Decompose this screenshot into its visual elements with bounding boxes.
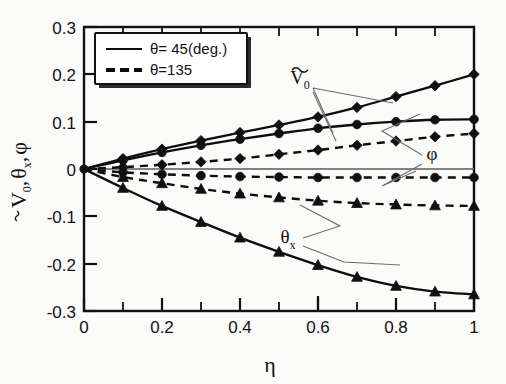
y-title-phi: φ [6,142,31,155]
x-tick-labels: 0 0.2 0.4 0.6 0.8 1 [79,318,478,337]
circle-marker [197,141,206,150]
thetax-annotation-base: θ [280,226,289,247]
y-title-theta: θ [6,168,31,179]
diamond-marker [391,91,401,101]
diamond-marker [235,153,245,163]
circle-marker [275,129,284,138]
circle-marker [470,115,479,124]
diamond-marker [274,120,284,130]
circle-marker [431,173,440,182]
thetax-annotation: θx [280,205,400,265]
y-tick-label: 0 [67,161,76,180]
triangle-marker [469,201,480,211]
diamond-marker [313,145,323,155]
svg-text:V0,θx,φ: V0,θx,φ [6,142,34,208]
diamond-marker [274,149,284,159]
y-tick-label: 0.2 [52,66,76,85]
diamond-marker [313,112,323,122]
svg-text:θx: θx [280,226,295,252]
y-title-tilde-accent [15,211,19,221]
phi-annotation-base: φ [427,143,438,164]
circle-marker [275,173,284,182]
y-title-v0-tilde: V [6,192,31,208]
y-tick-label: 0.1 [52,114,76,133]
x-tick-label: 0 [79,318,88,337]
data-series-layer [80,69,480,299]
y-tick-label: -0.2 [47,256,76,275]
circle-marker [431,115,440,124]
diamond-marker [430,80,440,90]
x-tick-label: 0.2 [150,318,174,337]
circle-marker [197,171,206,180]
circle-marker [236,172,245,181]
y-tick-label: 0.3 [52,19,76,38]
circle-marker [314,173,323,182]
origin-marker [80,165,88,173]
diamond-marker [352,102,362,112]
x-tick-label: 1 [469,318,478,337]
legend-label-0: θ= 45(deg.) [150,40,227,57]
x-tick-label: 0.8 [384,318,408,337]
circle-marker [314,124,323,133]
diamond-marker [352,140,362,150]
circle-marker [158,148,167,157]
x-tick-label: 0.4 [228,318,252,337]
thetax-annotation-sub: x [290,238,296,252]
diamond-marker [469,69,479,79]
diamond-marker [430,132,440,142]
y-tick-label: -0.1 [47,208,76,227]
chart-canvas: 0.3 0.2 0.1 0 -0.1 -0.2 -0.3 0 0.2 0.4 0… [0,0,506,384]
series-line-2 [84,169,474,294]
circle-marker [470,173,479,182]
circle-marker [353,173,362,182]
x-tick-label: 0.6 [306,318,330,337]
circle-marker [353,120,362,129]
v0-annotation-sub: 0 [304,78,310,92]
chart-figure: 0.3 0.2 0.1 0 -0.1 -0.2 -0.3 0 0.2 0.4 0… [0,0,506,384]
legend: θ= 45(deg.) θ=135 [95,33,251,88]
circle-marker [236,135,245,144]
legend-label-1: θ=135 [150,61,192,78]
y-tick-labels: 0.3 0.2 0.1 0 -0.1 -0.2 -0.3 [47,19,76,322]
y-title-comma-1: , [6,181,31,187]
y-tick-label: -0.3 [47,303,76,322]
y-axis-title: V0,θx,φ [6,142,34,221]
y-title-comma-2: , [6,157,31,163]
phi-annotation: φ [382,114,438,186]
diamond-marker [469,128,479,138]
diamond-marker [196,157,206,167]
triangle-marker [118,183,129,193]
x-axis-title: η [264,352,276,377]
